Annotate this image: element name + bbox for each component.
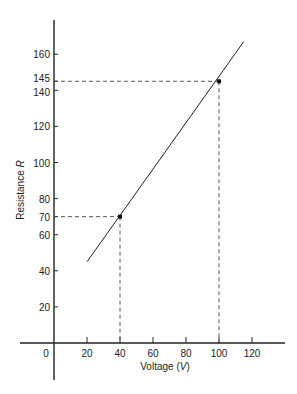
y-tick-label: 60 bbox=[39, 230, 51, 241]
y-tick-label: 140 bbox=[33, 87, 50, 98]
y-tick-label: 100 bbox=[33, 158, 50, 169]
y-axis-title: Resistance R bbox=[15, 160, 26, 219]
x-tick-label: 60 bbox=[147, 348, 159, 359]
x-tick-label: 80 bbox=[180, 348, 192, 359]
chart: 0204060801001202040607080100120140145160… bbox=[0, 0, 297, 394]
y-tick-label: 120 bbox=[33, 121, 50, 132]
data-line bbox=[87, 42, 244, 262]
x-tick-label: 100 bbox=[211, 348, 228, 359]
x-tick-label: 0 bbox=[43, 348, 49, 359]
y-tick-label: 160 bbox=[33, 49, 50, 60]
data-point bbox=[217, 79, 221, 83]
x-tick-label: 20 bbox=[81, 348, 93, 359]
y-tick-label: 20 bbox=[39, 302, 51, 313]
y-tick-label: 145 bbox=[33, 73, 50, 84]
x-axis-title: Voltage (V) bbox=[140, 361, 190, 372]
x-tick-label: 40 bbox=[114, 348, 126, 359]
y-tick-label: 80 bbox=[39, 194, 51, 205]
data-point bbox=[118, 215, 122, 219]
x-tick-label: 120 bbox=[244, 348, 261, 359]
y-tick-label: 40 bbox=[39, 266, 51, 277]
y-tick-label: 70 bbox=[39, 212, 51, 223]
